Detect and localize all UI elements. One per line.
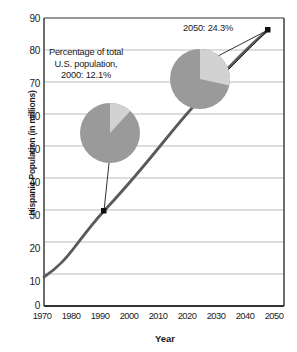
data-marker-2050 [265, 27, 271, 33]
hispanic-population-chart: Hispanic Population (in millions) 90 80 … [0, 0, 297, 352]
leader-line-2000 [104, 163, 109, 211]
callout-2000: Percentage of total U.S. population, 200… [34, 47, 138, 82]
leader-line-2050-lower [225, 30, 268, 73]
pie-chart-2000 [80, 103, 140, 163]
pie-chart-2050 [170, 49, 230, 109]
data-marker-2000 [101, 208, 107, 214]
callout-2050: 2050: 24.3% [158, 23, 258, 35]
callout-2000-line1: Percentage of total [34, 47, 138, 59]
pie-2050-hispanic-slice [200, 49, 230, 85]
callout-2000-line3: 2000: 12.1% [34, 70, 138, 82]
callout-2000-line2: U.S. population, [34, 59, 138, 71]
callout-2050-line1: 2050: 24.3% [158, 23, 258, 35]
